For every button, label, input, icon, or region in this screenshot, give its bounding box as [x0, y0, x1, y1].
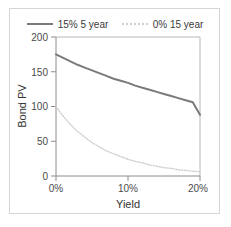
series-line-1: [56, 54, 200, 114]
x-axis-ticks: [56, 176, 200, 181]
y-tick-label-150: 150: [31, 67, 48, 78]
y-axis-title: Bond PV: [16, 84, 28, 128]
series-line-2: [56, 107, 200, 172]
x-tick-label-20: 20%: [188, 183, 208, 194]
plot-frame: [56, 37, 200, 176]
y-tick-label-100: 100: [31, 101, 48, 112]
x-tick-label-10: 10%: [118, 183, 138, 194]
y-tick-label-200: 200: [31, 32, 48, 43]
plot-area: 0 50 100 150 200 0% 10% 20% Yield Bond P…: [0, 0, 231, 227]
y-tick-label-0: 0: [42, 171, 48, 182]
x-tick-label-0: 0%: [49, 183, 64, 194]
x-axis-title: Yield: [116, 198, 140, 210]
chart-figure: 15% 5 year 0% 15 year 0 50 100 150 200: [0, 0, 231, 227]
y-axis-ticks: [51, 37, 56, 176]
data-series-group: [56, 54, 200, 171]
y-tick-label-50: 50: [37, 136, 49, 147]
